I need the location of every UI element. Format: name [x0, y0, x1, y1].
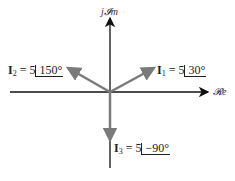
phasor-i1-arrow	[110, 68, 154, 92]
phasor-i3-label: I3 = 5−90°	[114, 142, 170, 158]
phasor-i2-label: I2 = 5150°	[8, 64, 63, 80]
phasor-i1-label: I1 = 530°	[157, 64, 206, 80]
imaginary-axis-label: j𝓘m	[101, 6, 118, 18]
angle-symbol: 150°	[35, 65, 63, 77]
phasor-i2-arrow	[68, 68, 110, 92]
angle-symbol: −90°	[141, 143, 170, 155]
real-axis-label: 𝓡e	[213, 86, 226, 98]
angle-symbol: 30°	[184, 65, 206, 77]
